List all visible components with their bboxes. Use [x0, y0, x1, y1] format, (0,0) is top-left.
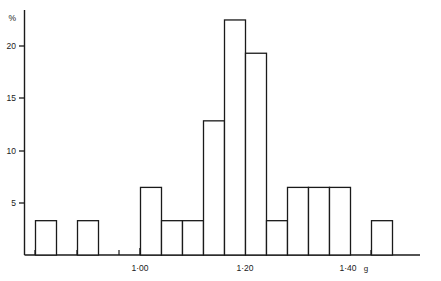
histogram-bar — [36, 221, 57, 255]
x-tick-label-1-00: 1·00 — [131, 263, 148, 273]
histogram-bar — [267, 221, 288, 255]
histogram-bar — [183, 221, 204, 255]
histogram-bar — [78, 221, 99, 255]
histogram-bar — [330, 187, 351, 255]
y-tick-label-10: 10 — [7, 146, 17, 156]
histogram-bar — [225, 20, 246, 255]
histogram-bar — [204, 121, 225, 255]
x-axis-unit-label: g — [364, 264, 368, 273]
histogram-bars — [36, 20, 393, 255]
histogram-bar — [141, 187, 162, 255]
histogram-bar — [162, 221, 183, 255]
chart-canvas: 20 15 10 5 % — [0, 0, 441, 281]
histogram-bar — [288, 187, 309, 255]
histogram-bar — [372, 221, 393, 255]
y-axis-ticks — [19, 46, 25, 203]
x-tick-label-1-40: 1·40 — [339, 263, 356, 273]
y-tick-label-15: 15 — [7, 93, 17, 103]
histogram-bar — [246, 53, 267, 255]
y-tick-label-5: 5 — [11, 198, 16, 208]
y-axis-unit-label: % — [8, 13, 16, 23]
y-tick-label-20: 20 — [7, 41, 17, 51]
histogram-chart: 20 15 10 5 % — [0, 0, 441, 281]
histogram-bar — [309, 187, 330, 255]
x-tick-label-1-20: 1·20 — [236, 263, 253, 273]
